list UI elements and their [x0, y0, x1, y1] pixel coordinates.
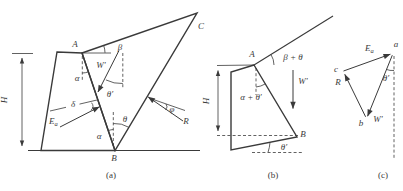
theta-prime-label-c: θ′ — [383, 73, 390, 83]
reaction-label: R — [182, 116, 189, 126]
alpha-wall-arc — [82, 72, 88, 73]
delta-normal-line-right — [80, 100, 98, 104]
soil-wedge-outline — [82, 13, 197, 151]
vertex-a-label-b: A — [248, 49, 255, 59]
beta-arc — [104, 46, 105, 53]
ea-label: Ea — [48, 116, 58, 127]
theta-angle-label: θ — [123, 114, 128, 124]
vertex-c-label-c: c — [334, 64, 338, 74]
ea-vector-label: Ea — [364, 43, 374, 54]
theta-prime-arc-c — [386, 69, 394, 70]
vertex-b-label-c: b — [359, 118, 364, 128]
alpha-wall-label: α — [75, 73, 80, 83]
vertex-c-label: C — [198, 21, 205, 31]
reaction-vector-label: R — [334, 77, 341, 87]
reaction-arrow — [148, 97, 183, 121]
panel-a: H β α W′ θ′ Ea δ α θ R φ A — [0, 13, 205, 180]
ea-arrow — [60, 107, 99, 127]
theta-prime-arc — [106, 80, 123, 84]
beta-theta-arc — [271, 55, 274, 65]
vertex-a-label-c: a — [394, 39, 399, 49]
retaining-wall-figure: H β α W′ θ′ Ea δ α θ R φ A — [0, 0, 403, 191]
theta-prime-label: θ′ — [107, 89, 114, 99]
top-horizontal-ref-line — [217, 65, 254, 66]
beta-theta-label: β + θ — [282, 52, 303, 62]
weight-label: W′ — [96, 60, 106, 70]
ea-vector-arrow — [344, 54, 391, 71]
h-dim-label-b: H — [201, 97, 211, 105]
vertex-a-label: A — [71, 39, 78, 49]
delta-angle-label: δ — [71, 99, 76, 109]
caption-b: (b) — [268, 170, 279, 180]
panel-b: β + θ α + θ′ W′ H θ′ A B (b) — [201, 16, 333, 180]
weight-vector-arrow — [368, 55, 393, 116]
weight-label-b: W′ — [298, 76, 308, 86]
theta-prime-label-b: θ′ — [281, 142, 288, 152]
reaction-vector-arrow — [345, 74, 366, 117]
figure-canvas: H β α W′ θ′ Ea δ α θ R φ A — [0, 0, 403, 191]
alpha-base-arc — [108, 130, 113, 131]
alpha-theta-prime-label: α + θ′ — [240, 92, 263, 102]
h-dim-label: H — [0, 96, 9, 104]
panel-c: Ea W′ R θ′ a b c (c) — [334, 39, 399, 180]
caption-a: (a) — [106, 170, 116, 180]
phi-normal-line — [149, 98, 185, 111]
caption-c: (c) — [378, 170, 388, 180]
vertex-b-label-b: B — [300, 129, 306, 139]
rotated-wall-outline — [231, 65, 297, 150]
theta-arc — [113, 123, 129, 127]
beta-angle-label: β — [117, 42, 123, 52]
weight-vector-label: W′ — [373, 114, 383, 124]
theta-prime-arc-b — [268, 143, 270, 153]
delta-arc — [91, 103, 93, 111]
alpha-theta-prime-arc — [256, 84, 265, 87]
alpha-base-label: α — [97, 131, 102, 141]
delta-normal-line-left — [50, 107, 66, 111]
phi-angle-label: φ — [170, 104, 175, 114]
weight-arrow — [98, 51, 119, 93]
vertex-b-label: B — [111, 153, 117, 163]
